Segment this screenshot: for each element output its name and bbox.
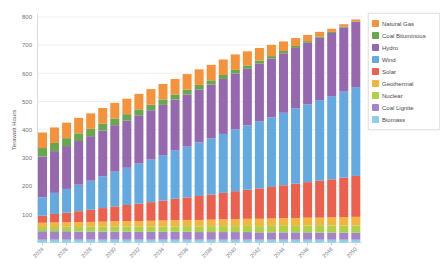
bar-2029-hydro[interactable] xyxy=(98,131,107,177)
bar-2036-nuclear[interactable] xyxy=(183,226,192,232)
bar-2037-coal-lignite[interactable] xyxy=(195,232,204,240)
bar-2045-coal-bituminous[interactable] xyxy=(291,46,300,48)
bar-2024-geothermal[interactable] xyxy=(38,223,47,227)
bar-2032-coal-bituminous[interactable] xyxy=(134,109,143,115)
bar-2047-natural-gas[interactable] xyxy=(315,32,324,37)
bar-2037-solar[interactable] xyxy=(195,196,204,220)
bar-2029-coal-lignite[interactable] xyxy=(98,232,107,240)
bar-2045-solar[interactable] xyxy=(291,184,300,218)
bar-2032-nuclear[interactable] xyxy=(134,227,143,232)
bar-2050-nuclear[interactable] xyxy=(351,226,360,233)
bar-2036-geothermal[interactable] xyxy=(183,220,192,226)
bar-2042-solar[interactable] xyxy=(255,188,264,218)
bar-2048-biomass[interactable] xyxy=(327,240,336,243)
bar-2029-solar[interactable] xyxy=(98,208,107,222)
bar-2046-hydro[interactable] xyxy=(303,43,312,104)
bar-2031-solar[interactable] xyxy=(122,205,131,221)
bar-2036-coal-bituminous[interactable] xyxy=(183,90,192,95)
bar-2027-biomass[interactable] xyxy=(74,240,83,243)
bar-2036-hydro[interactable] xyxy=(183,94,192,146)
bar-2044-solar[interactable] xyxy=(279,185,288,218)
bar-2039-coal-bituminous[interactable] xyxy=(219,75,228,79)
bar-2040-coal-lignite[interactable] xyxy=(231,232,240,240)
bar-2036-coal-lignite[interactable] xyxy=(183,232,192,240)
bar-2024-coal-lignite[interactable] xyxy=(38,231,47,239)
bar-2040-geothermal[interactable] xyxy=(231,219,240,226)
bar-2049-natural-gas[interactable] xyxy=(339,24,348,26)
bar-2033-nuclear[interactable] xyxy=(146,226,155,231)
bar-2046-nuclear[interactable] xyxy=(303,226,312,233)
bar-2035-biomass[interactable] xyxy=(171,240,180,243)
bar-2041-biomass[interactable] xyxy=(243,240,252,243)
bar-2045-geothermal[interactable] xyxy=(291,218,300,226)
bar-2033-coal-lignite[interactable] xyxy=(146,232,155,240)
bar-2047-coal-lignite[interactable] xyxy=(315,233,324,240)
bar-2035-hydro[interactable] xyxy=(171,100,180,151)
bar-2024-solar[interactable] xyxy=(38,216,47,223)
bar-2034-natural-gas[interactable] xyxy=(159,84,168,100)
bar-2037-wind[interactable] xyxy=(195,142,204,196)
bar-2028-nuclear[interactable] xyxy=(86,227,95,232)
bar-2038-solar[interactable] xyxy=(207,195,216,220)
bar-2024-natural-gas[interactable] xyxy=(38,133,47,149)
bar-2038-wind[interactable] xyxy=(207,138,216,194)
bar-2038-geothermal[interactable] xyxy=(207,220,216,226)
bar-2025-biomass[interactable] xyxy=(50,240,59,243)
bar-2028-biomass[interactable] xyxy=(86,240,95,243)
bar-2038-biomass[interactable] xyxy=(207,240,216,243)
bar-2027-hydro[interactable] xyxy=(74,141,83,185)
bar-2047-hydro[interactable] xyxy=(315,38,324,100)
bar-2042-coal-lignite[interactable] xyxy=(255,232,264,239)
bar-2041-wind[interactable] xyxy=(243,125,252,189)
bar-2042-nuclear[interactable] xyxy=(255,226,264,232)
bar-2049-coal-lignite[interactable] xyxy=(339,233,348,240)
bar-2044-coal-lignite[interactable] xyxy=(279,232,288,239)
bar-2032-biomass[interactable] xyxy=(134,240,143,243)
bar-2046-solar[interactable] xyxy=(303,182,312,218)
bar-2035-coal-bituminous[interactable] xyxy=(171,94,180,99)
bar-2030-wind[interactable] xyxy=(110,172,119,207)
bar-2029-biomass[interactable] xyxy=(98,240,107,243)
bar-2027-wind[interactable] xyxy=(74,185,83,212)
bar-2024-wind[interactable] xyxy=(38,197,47,215)
bar-2049-wind[interactable] xyxy=(339,92,348,178)
bar-2026-biomass[interactable] xyxy=(62,240,71,243)
bar-2030-nuclear[interactable] xyxy=(110,227,119,232)
bar-2025-coal-bituminous[interactable] xyxy=(50,143,59,151)
bar-2033-hydro[interactable] xyxy=(146,110,155,159)
bar-2025-wind[interactable] xyxy=(50,193,59,214)
bar-2024-biomass[interactable] xyxy=(38,240,47,243)
legend-item-wind[interactable]: Wind xyxy=(372,54,436,65)
bar-2048-geothermal[interactable] xyxy=(327,217,336,225)
bar-2036-solar[interactable] xyxy=(183,197,192,220)
bar-2026-hydro[interactable] xyxy=(62,146,71,189)
bar-2043-biomass[interactable] xyxy=(267,240,276,243)
bar-2030-solar[interactable] xyxy=(110,206,119,221)
bar-2050-natural-gas[interactable] xyxy=(351,19,360,21)
bar-2046-biomass[interactable] xyxy=(303,240,312,243)
bar-2048-wind[interactable] xyxy=(327,96,336,179)
bar-2038-natural-gas[interactable] xyxy=(207,65,216,81)
bar-2037-geothermal[interactable] xyxy=(195,220,204,226)
bar-2049-nuclear[interactable] xyxy=(339,226,348,233)
legend-item-nuclear[interactable]: Nuclear xyxy=(372,90,436,101)
bar-2048-nuclear[interactable] xyxy=(327,226,336,233)
bar-2042-hydro[interactable] xyxy=(255,64,264,122)
bar-2032-geothermal[interactable] xyxy=(134,221,143,227)
bar-2040-biomass[interactable] xyxy=(231,240,240,243)
bar-2025-nuclear[interactable] xyxy=(50,227,59,231)
bar-2039-coal-lignite[interactable] xyxy=(219,232,228,240)
bar-2046-geothermal[interactable] xyxy=(303,218,312,226)
bar-2037-biomass[interactable] xyxy=(195,240,204,243)
legend-item-geothermal[interactable]: Geothermal xyxy=(372,78,436,89)
bar-2026-solar[interactable] xyxy=(62,213,71,223)
bar-2042-geothermal[interactable] xyxy=(255,219,264,226)
bar-2040-coal-bituminous[interactable] xyxy=(231,70,240,74)
bar-2043-hydro[interactable] xyxy=(267,59,276,118)
bar-2033-geothermal[interactable] xyxy=(146,221,155,227)
bar-2039-biomass[interactable] xyxy=(219,240,228,243)
bar-2027-solar[interactable] xyxy=(74,211,83,222)
bar-2038-coal-lignite[interactable] xyxy=(207,232,216,240)
bar-2041-nuclear[interactable] xyxy=(243,226,252,232)
bar-2034-biomass[interactable] xyxy=(159,240,168,243)
